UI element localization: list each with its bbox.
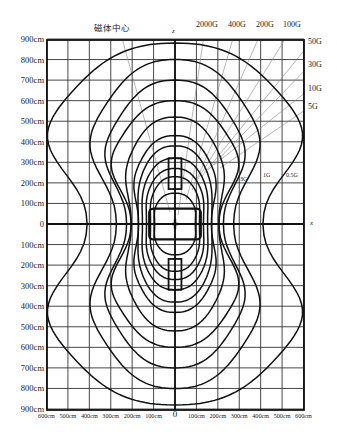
y-tick-label: 800cm xyxy=(0,55,44,65)
x-tick-label: 300cm xyxy=(102,412,119,419)
y-tick-label: 600cm xyxy=(0,342,44,352)
isogauss-figure: 磁体中心 z x 900cm800cm700cm600cm500cm400cm3… xyxy=(0,0,337,435)
y-tick-label: 500cm xyxy=(0,322,44,332)
label-30g: 30G xyxy=(308,60,322,69)
label-1g: 1G xyxy=(263,172,270,178)
x-tick-label: 600cm xyxy=(38,412,55,419)
y-tick-label: 100cm xyxy=(0,198,44,208)
y-tick-label: 500cm xyxy=(0,116,44,126)
y-tick-label: 300cm xyxy=(0,281,44,291)
y-tick-label: 400cm xyxy=(0,301,44,311)
x-tick-label: 600cm xyxy=(295,412,312,419)
magnet-center-label: 磁体中心 xyxy=(94,21,130,33)
x-tick-label: 100cm xyxy=(145,412,162,419)
y-tick-label: 600cm xyxy=(0,96,44,106)
x-axis-letter: x xyxy=(310,219,313,227)
label-3g: 3G xyxy=(240,176,247,182)
label-100g: 100G xyxy=(283,20,301,29)
y-tick-label: 200cm xyxy=(0,178,44,188)
x-tick-label: 200cm xyxy=(209,412,226,419)
x-tick-label: 200cm xyxy=(124,412,141,419)
label-50g: 50G xyxy=(308,37,322,46)
label-5g: 5G xyxy=(308,102,318,111)
y-tick-label: 700cm xyxy=(0,75,44,85)
contour-plot xyxy=(0,0,337,435)
y-tick-label: 900cm xyxy=(0,34,44,44)
z-axis-letter: z xyxy=(172,27,175,35)
y-tick-label: 300cm xyxy=(0,157,44,167)
label-400g: 400G xyxy=(228,20,246,29)
x-tick-label: 300cm xyxy=(231,412,248,419)
y-tick-label: 100cm xyxy=(0,240,44,250)
x-tick-label: 500cm xyxy=(59,412,76,419)
label-2000g: 2000G xyxy=(196,20,218,29)
x-tick-label: 400cm xyxy=(81,412,98,419)
x-tick-label: 400cm xyxy=(252,412,269,419)
y-tick-label: 200cm xyxy=(0,260,44,270)
x-tick-label: 100cm xyxy=(188,412,205,419)
y-tick-label: 400cm xyxy=(0,137,44,147)
x-tick-label: 0 xyxy=(173,409,178,419)
y-tick-label: 700cm xyxy=(0,363,44,373)
label-200g: 200G xyxy=(256,20,274,29)
y-tick-label: 800cm xyxy=(0,383,44,393)
label-0-5g: 0.5G xyxy=(286,172,298,178)
x-tick-label: 500cm xyxy=(274,412,291,419)
label-10g: 10G xyxy=(308,84,322,93)
y-tick-label: 0 xyxy=(0,219,44,229)
